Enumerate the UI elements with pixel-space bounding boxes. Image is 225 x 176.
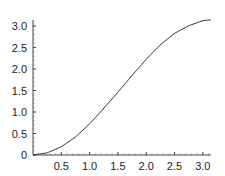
x-tick-label: 2.5	[167, 160, 182, 172]
y-tick-label: 0.5	[12, 128, 27, 140]
x-tick-label: 1.5	[110, 160, 125, 172]
x-tick-label: 0.5	[54, 160, 69, 172]
plot-area: 0.51.01.52.02.53.000.51.01.52.02.53.0	[12, 20, 211, 172]
y-tick-label: 1.5	[12, 85, 27, 97]
y-tick-label: 3.0	[12, 20, 27, 32]
y-tick-label: 2.5	[12, 42, 27, 54]
data-line	[33, 20, 211, 155]
y-tick-label: 1.0	[12, 106, 27, 118]
x-tick-label: 3.0	[195, 160, 210, 172]
line-chart: 0.51.01.52.02.53.000.51.01.52.02.53.0	[0, 0, 225, 176]
x-tick-label: 1.0	[82, 160, 97, 172]
y-tick-label: 0	[21, 149, 27, 161]
x-tick-label: 2.0	[139, 160, 154, 172]
y-tick-label: 2.0	[12, 63, 27, 75]
